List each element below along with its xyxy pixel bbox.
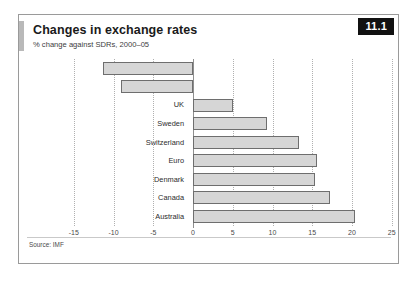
x-tick-label: 25 [377, 229, 407, 236]
category-label: UK [74, 100, 184, 109]
category-label: Canada [74, 193, 184, 202]
bar [193, 191, 330, 204]
bar [193, 210, 355, 223]
bar [121, 80, 193, 93]
bar [193, 154, 317, 167]
bar [193, 99, 233, 112]
category-label: Switzerland [74, 138, 184, 147]
x-tick-label: 5 [218, 229, 248, 236]
x-tick-label: 10 [258, 229, 288, 236]
chart-card: Changes in exchange rates % change again… [18, 14, 399, 264]
bar [193, 173, 315, 186]
bar [103, 62, 193, 75]
x-tick-label: -5 [138, 229, 168, 236]
gridline [114, 59, 115, 226]
category-label: Euro [74, 156, 184, 165]
source-note: Source: IMF [29, 241, 64, 248]
x-tick-label: 20 [337, 229, 367, 236]
gridline [74, 59, 75, 226]
x-tick-label: -15 [59, 229, 89, 236]
bar-chart-plot: JapanUSAUKSwedenSwitzerlandEuroDenmarkCa… [19, 15, 400, 265]
category-label: Sweden [74, 119, 184, 128]
category-label: Denmark [74, 175, 184, 184]
divider [27, 237, 391, 238]
gridline [352, 59, 353, 226]
x-tick-label: 0 [178, 229, 208, 236]
category-label: Australia [74, 212, 184, 221]
x-tick-label: 15 [297, 229, 327, 236]
x-tick-label: -10 [99, 229, 129, 236]
bar [193, 117, 267, 130]
bar [193, 136, 299, 149]
gridline [392, 59, 393, 226]
